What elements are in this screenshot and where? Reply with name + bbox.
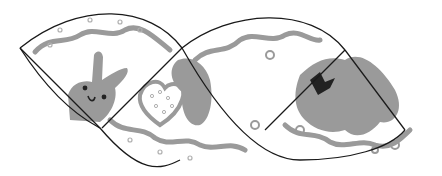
heart-cookie: [140, 82, 184, 125]
right-lens-top-edge: [182, 18, 345, 50]
wavy-border-bottom: [110, 120, 245, 150]
star-cookie: [295, 57, 399, 135]
left-lens: [35, 18, 245, 160]
wavy-border-top: [35, 28, 170, 52]
wavy-border-top-right: [195, 33, 320, 60]
egg-template-illustration: [0, 0, 442, 176]
